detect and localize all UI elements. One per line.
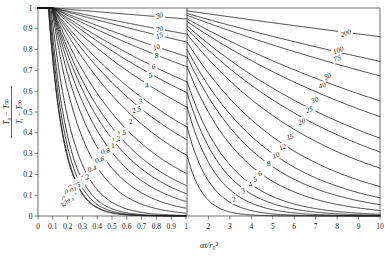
x-tick-label-left: 0.1	[48, 222, 58, 231]
x-tick-label-right: 4	[249, 222, 253, 231]
curve-5	[187, 92, 380, 215]
curve-15	[187, 42, 380, 187]
y-tick-label: 0.8	[23, 45, 33, 54]
x-tick-label-right: 10	[376, 222, 384, 231]
y-tick-label: 0.4	[23, 128, 33, 137]
y-axis-denominator: Tᵢ − T∞	[15, 99, 24, 124]
x-tick-label-right: 3	[228, 222, 232, 231]
x-tick-label-right: 5	[271, 222, 275, 231]
x-tick-label-left: 0.8	[152, 222, 162, 231]
y-axis-numerator: T₀ − T∞	[2, 99, 11, 125]
x-tick-label-left: 0.3	[78, 222, 88, 231]
y-tick-label: 0.9	[23, 24, 33, 33]
curve-12	[187, 49, 380, 197]
x-axis-label: αt/r₀²	[200, 240, 218, 250]
heisler-chart-svg: 00.10.20.30.40.50.60.70.80.9123456789100…	[0, 0, 392, 256]
x-tick-label-right: 2	[207, 222, 211, 231]
curve-100	[187, 14, 380, 62]
x-tick-label-left: 1	[184, 222, 188, 231]
x-tick-label-left: 0.7	[137, 222, 147, 231]
y-tick-label: 0.2	[23, 170, 33, 179]
x-tick-label-right: 6	[292, 222, 296, 231]
x-tick-label-left: 0.5	[107, 222, 117, 231]
y-tick-label: 0.7	[23, 66, 33, 75]
x-tick-label-left: 0.6	[122, 222, 132, 231]
y-tick-label: 0.5	[23, 108, 33, 117]
curve-8	[187, 66, 380, 210]
curve-3	[187, 126, 380, 216]
x-tick-label-left: 0.2	[63, 222, 73, 231]
y-tick-label: 0.3	[23, 149, 33, 158]
curve-10	[187, 56, 380, 204]
x-tick-label-left: 0.4	[93, 222, 103, 231]
plot-frame	[38, 8, 380, 216]
x-tick-label-left: 0.9	[167, 222, 177, 231]
curve-25	[187, 29, 380, 152]
y-tick-label: 0.6	[23, 87, 33, 96]
y-tick-label: 0.1	[23, 191, 33, 200]
x-tick-label-right: 9	[357, 222, 361, 231]
x-tick-label-left: 0	[36, 222, 40, 231]
x-tick-label-right: 8	[335, 222, 339, 231]
y-tick-label: 1	[29, 4, 33, 13]
x-tick-label-right: 7	[314, 222, 318, 231]
y-axis-label: T₀ − T∞Tᵢ − T∞	[2, 86, 24, 138]
y-tick-label: 0	[29, 212, 33, 221]
chart-figure: 00.10.20.30.40.50.60.70.80.9123456789100…	[0, 0, 392, 256]
